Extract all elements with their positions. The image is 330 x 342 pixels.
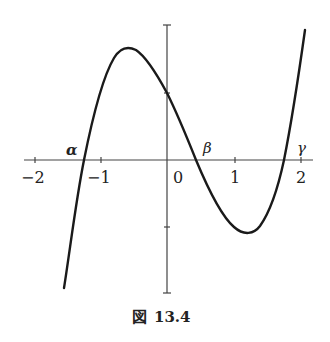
y-axis — [163, 25, 171, 293]
x-tick-label-2: 2 — [296, 168, 306, 187]
caption-number: 13.4 — [154, 308, 191, 326]
x-tick-label-neg1: −1 — [87, 168, 111, 187]
x-tick-labels: −2 −1 0 1 2 — [21, 168, 306, 187]
x-tick-label-1: 1 — [230, 168, 240, 187]
beta-label: β — [202, 139, 212, 157]
x-tick-label-neg2: −2 — [21, 168, 45, 187]
caption-prefix: 図 — [132, 308, 147, 326]
gamma-label: γ — [297, 139, 306, 157]
cubic-curve — [64, 30, 305, 288]
x-tick-label-0: 0 — [173, 168, 183, 187]
root-annotations: α β γ — [66, 139, 306, 159]
alpha-label: α — [66, 141, 78, 159]
figure-caption: 図 13.4 — [132, 308, 191, 326]
cubic-function-figure: −2 −1 0 1 2 α β γ 図 13.4 — [0, 0, 330, 342]
